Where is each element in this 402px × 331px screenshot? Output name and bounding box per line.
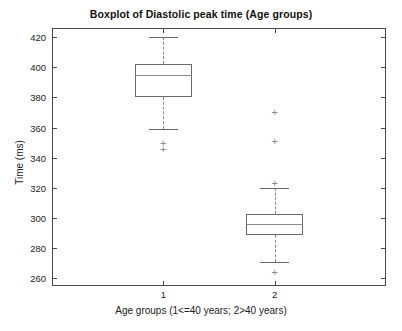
- whisker-cap-upper: [149, 37, 179, 38]
- box-iqr: [135, 64, 192, 97]
- outlier-marker: +: [270, 108, 279, 117]
- y-tick-label: 340: [6, 152, 46, 163]
- y-tick-label: 260: [6, 273, 46, 284]
- outlier-marker: +: [270, 179, 279, 188]
- x-tick-mark-top: [275, 28, 276, 33]
- chart-title: Boxplot of Diastolic peak time (Age grou…: [0, 8, 402, 20]
- x-tick-mark: [163, 281, 164, 286]
- y-tick-mark-right: [381, 97, 386, 98]
- whisker-cap-lower: [149, 129, 179, 130]
- whisker-upper: [275, 188, 276, 214]
- y-tick-mark: [52, 67, 57, 68]
- y-tick-mark-right: [381, 278, 386, 279]
- figure-canvas: Boxplot of Diastolic peak time (Age grou…: [0, 0, 402, 331]
- y-tick-label: 280: [6, 243, 46, 254]
- y-tick-mark-right: [381, 248, 386, 249]
- y-tick-mark: [52, 37, 57, 38]
- whisker-upper: [163, 37, 164, 64]
- y-tick-mark: [52, 218, 57, 219]
- x-tick-label: 2: [255, 289, 295, 300]
- y-tick-mark: [52, 278, 57, 279]
- y-tick-mark-right: [381, 158, 386, 159]
- y-tick-label: 300: [6, 213, 46, 224]
- y-tick-label: 360: [6, 122, 46, 133]
- y-tick-label: 320: [6, 182, 46, 193]
- plot-area: [52, 28, 386, 286]
- x-tick-label: 1: [143, 289, 183, 300]
- y-tick-label: 400: [6, 62, 46, 73]
- outlier-marker: +: [270, 137, 279, 146]
- median-line: [135, 75, 192, 76]
- y-tick-mark: [52, 97, 57, 98]
- whisker-lower: [163, 97, 164, 129]
- outlier-marker: +: [159, 144, 168, 153]
- y-tick-mark-right: [381, 188, 386, 189]
- x-axis-label: Age groups (1<=40 years; 2>40 years): [0, 305, 402, 316]
- x-tick-mark-top: [163, 28, 164, 33]
- y-tick-mark-right: [381, 218, 386, 219]
- y-tick-mark: [52, 248, 57, 249]
- y-tick-mark: [52, 188, 57, 189]
- median-line: [246, 224, 303, 225]
- y-tick-mark: [52, 158, 57, 159]
- y-tick-mark-right: [381, 128, 386, 129]
- x-tick-mark: [275, 281, 276, 286]
- y-tick-mark-right: [381, 37, 386, 38]
- whisker-lower: [275, 235, 276, 262]
- y-tick-label: 380: [6, 92, 46, 103]
- y-tick-mark: [52, 128, 57, 129]
- whisker-cap-lower: [260, 262, 290, 263]
- y-tick-label: 420: [6, 32, 46, 43]
- outlier-marker: +: [270, 268, 279, 277]
- y-tick-mark-right: [381, 67, 386, 68]
